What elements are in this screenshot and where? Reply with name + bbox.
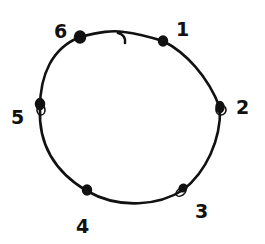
node-label-6: 6 xyxy=(54,20,67,42)
edge-3-4 xyxy=(87,190,183,203)
edge-6-1 xyxy=(80,31,163,41)
edge-4-5 xyxy=(40,108,87,191)
node-label-1: 1 xyxy=(176,18,189,40)
cycle-graph-diagram: 1 2 3 4 5 6 xyxy=(0,0,265,244)
node-2 xyxy=(216,102,226,116)
node-4 xyxy=(83,185,92,195)
node-label-4: 4 xyxy=(76,215,89,237)
node-6 xyxy=(75,31,86,43)
node-label-2: 2 xyxy=(236,96,249,118)
edge-5-6 xyxy=(40,37,80,108)
graph-edges xyxy=(40,31,220,203)
edge-1-2 xyxy=(163,41,220,108)
node-3 xyxy=(174,183,188,198)
node-label-5: 5 xyxy=(11,106,24,128)
edge-2-3 xyxy=(183,108,220,190)
node-label-3: 3 xyxy=(195,200,208,222)
edge-hook-mark xyxy=(118,33,125,43)
node-1 xyxy=(159,36,168,46)
